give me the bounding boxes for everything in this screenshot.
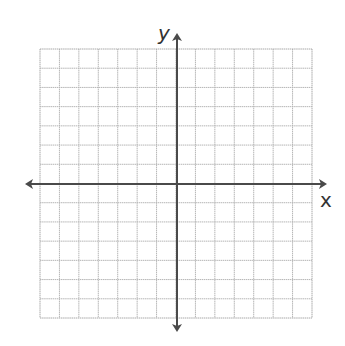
x-axis-label: x: [320, 188, 332, 212]
y-axis-label: y: [157, 21, 171, 45]
coordinate-plane: y x: [0, 0, 345, 346]
axes: [25, 33, 327, 332]
